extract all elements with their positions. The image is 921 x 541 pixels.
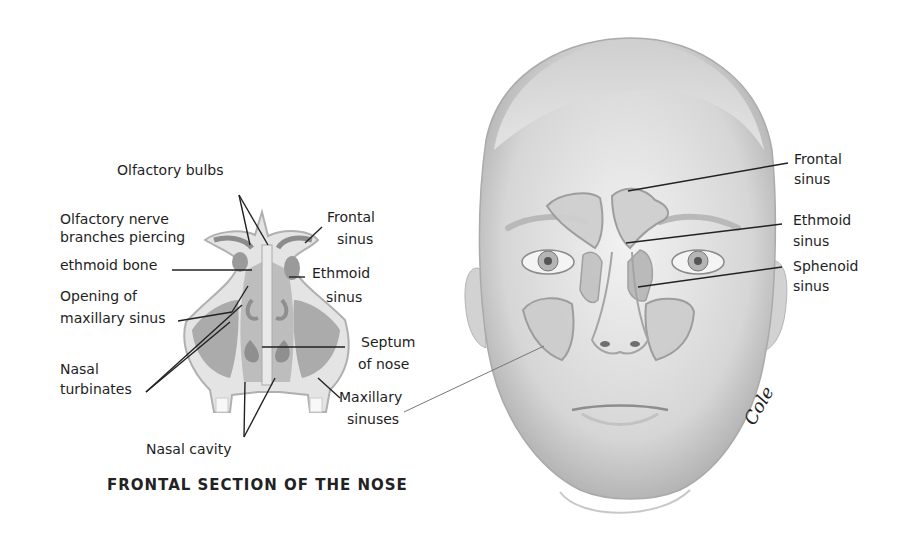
label-olfactory-bulbs: Olfactory bulbs — [117, 161, 224, 179]
label-ethmoid-sinus-line2: sinus — [326, 288, 362, 306]
label-nasal-turbinates-line2: turbinates — [60, 380, 132, 398]
face-drawing — [465, 38, 787, 513]
label-septum-line1: Septum — [361, 333, 415, 351]
label-ethmoid-sinus-line1: Ethmoid — [312, 264, 370, 282]
label-frontal-sinus-line2: sinus — [337, 230, 373, 248]
label-face-ethmoid-line2: sinus — [793, 232, 829, 250]
label-maxillary-line2: sinuses — [347, 410, 399, 428]
label-olfactory-nerve-line1: Olfactory nerve — [60, 210, 169, 228]
label-opening-line1: Opening of — [60, 287, 137, 305]
label-maxillary-line1: Maxillary — [339, 388, 402, 406]
label-face-sphenoid-line1: Sphenoid — [793, 257, 858, 275]
label-opening-line2: maxillary sinus — [60, 309, 165, 327]
label-nasal-cavity: Nasal cavity — [146, 440, 232, 458]
label-frontal-sinus-line1: Frontal — [327, 208, 375, 226]
label-face-frontal-line2: sinus — [794, 170, 830, 188]
label-face-frontal-line1: Frontal — [794, 150, 842, 168]
label-face-ethmoid-line1: Ethmoid — [793, 211, 851, 229]
figure-caption: FRONTAL SECTION OF THE NOSE — [107, 476, 408, 494]
label-olfactory-nerve-line2: branches piercing — [60, 228, 185, 246]
label-nasal-turbinates-line1: Nasal — [60, 360, 99, 378]
label-face-sphenoid-line2: sinus — [793, 277, 829, 295]
label-septum-line2: of nose — [358, 355, 409, 373]
label-olfactory-nerve-line3: ethmoid bone — [60, 256, 157, 274]
